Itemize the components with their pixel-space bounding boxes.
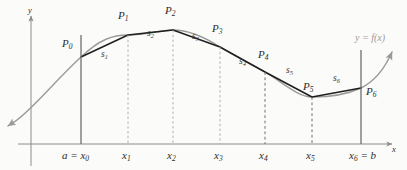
point-label-p2: P2 bbox=[165, 5, 175, 18]
point-label-p2-base: P bbox=[165, 4, 172, 16]
point-label-p5-sub: 5 bbox=[310, 85, 314, 94]
point-label-p0-sub: 0 bbox=[69, 42, 73, 51]
segment-label-s6-sub: 6 bbox=[337, 77, 340, 84]
segment-label-s3-sub: 3 bbox=[196, 35, 199, 42]
tick-label-x0: a = x0 bbox=[62, 150, 89, 163]
segment-label-s1: s1 bbox=[101, 50, 108, 61]
point-label-p6: P6 bbox=[366, 86, 376, 99]
point-label-p3: P3 bbox=[212, 23, 222, 36]
tick-label-x5: x5 bbox=[306, 150, 315, 163]
tick-label-x3: x3 bbox=[214, 150, 223, 163]
x-axis-label: x bbox=[392, 145, 396, 154]
tick-label-x4: x4 bbox=[259, 150, 268, 163]
point-label-p5: P5 bbox=[303, 81, 313, 94]
segment-label-s6: s6 bbox=[333, 74, 340, 85]
point-label-p4-sub: 4 bbox=[265, 53, 269, 62]
polygonal-approximation bbox=[81, 30, 361, 97]
point-label-p6-sub: 6 bbox=[373, 90, 377, 99]
point-label-p4: P4 bbox=[258, 49, 268, 62]
tick-label-x1: x1 bbox=[122, 150, 131, 163]
tick-label-x6-suffix: = b bbox=[358, 149, 376, 161]
segment-label-s5-sub: 5 bbox=[290, 69, 293, 76]
segment-label-s2-sub: 2 bbox=[151, 32, 154, 39]
point-label-p1: P1 bbox=[118, 10, 128, 23]
segment-label-s4: s4 bbox=[239, 57, 246, 68]
function-curve-left-tail bbox=[8, 122, 14, 126]
tick-label-x4-sub: 4 bbox=[264, 154, 268, 163]
point-label-p5-base: P bbox=[303, 80, 310, 92]
segment-label-s4-sub: 4 bbox=[243, 60, 246, 67]
tick-label-x5-sub: 5 bbox=[311, 154, 315, 163]
segment-label-s2: s2 bbox=[147, 29, 154, 40]
tick-label-x2: x2 bbox=[167, 150, 176, 163]
point-label-p1-sub: 1 bbox=[125, 14, 129, 23]
point-label-p3-sub: 3 bbox=[219, 27, 223, 36]
tick-label-x0-sub: 0 bbox=[85, 154, 89, 163]
tick-label-x2-sub: 2 bbox=[172, 154, 176, 163]
tick-label-x6: x6 = b bbox=[349, 150, 376, 163]
point-label-p6-base: P bbox=[366, 85, 373, 97]
segment-label-s5: s5 bbox=[286, 66, 293, 77]
point-label-p4-base: P bbox=[258, 48, 265, 60]
curve-equation-label: y = f(x) bbox=[355, 33, 385, 43]
segment-label-s1-sub: 1 bbox=[105, 53, 108, 60]
arc-length-figure: y x y = f(x) P0 P1 P2 P3 P4 P5 P6 s1 s2 … bbox=[0, 0, 407, 170]
point-label-p2-sub: 2 bbox=[172, 9, 176, 18]
point-label-p1-base: P bbox=[118, 9, 125, 21]
tick-label-x1-sub: 1 bbox=[127, 154, 131, 163]
tick-label-x0-base: a = x bbox=[62, 149, 85, 161]
point-label-p3-base: P bbox=[212, 22, 219, 34]
point-label-p0: P0 bbox=[62, 38, 72, 51]
figure-canvas bbox=[0, 0, 407, 170]
tick-label-x3-sub: 3 bbox=[219, 154, 223, 163]
point-label-p0-base: P bbox=[62, 37, 69, 49]
segment-label-s3: s3 bbox=[192, 32, 199, 43]
y-axis-label: y bbox=[28, 6, 32, 15]
